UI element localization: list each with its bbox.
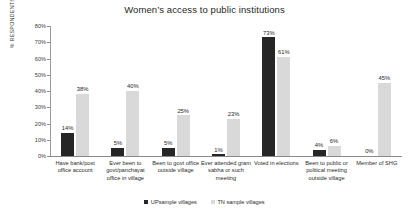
- x-axis-category-label: Ever been to govt/panchayat office in vi…: [100, 160, 150, 182]
- bar-slot: 4%: [313, 26, 326, 156]
- bar[interactable]: 73%: [262, 37, 275, 156]
- y-axis-tick-label: 70%: [18, 39, 46, 45]
- bar-group: 5%25%: [151, 26, 201, 156]
- bar[interactable]: 23%: [227, 119, 240, 156]
- x-axis-category-label: Been to govt office outside village: [151, 160, 201, 175]
- y-axis-tick-label: 20%: [18, 121, 46, 127]
- legend-label: TN sample villages: [217, 199, 264, 205]
- bar-value-label: 5%: [114, 141, 122, 147]
- bar-slot: 45%: [378, 26, 391, 156]
- bar[interactable]: 5%: [162, 148, 175, 156]
- bar-value-label: 25%: [177, 109, 189, 115]
- bar[interactable]: 25%: [177, 115, 190, 156]
- bar-group-bars: 1%23%: [201, 26, 251, 156]
- bar-group-bars: 5%25%: [151, 26, 201, 156]
- bar-value-label: 6%: [330, 139, 338, 145]
- bar-value-label: 4%: [315, 143, 323, 149]
- bar-value-label: 38%: [77, 87, 89, 93]
- bar-slot: 38%: [76, 26, 89, 156]
- x-axis-category-label: Been to public or political meeting outs…: [301, 160, 351, 182]
- bar[interactable]: 14%: [61, 133, 74, 156]
- legend-item[interactable]: UPsample villages: [144, 199, 197, 205]
- bar[interactable]: 4%: [313, 150, 326, 157]
- chart-container: Women’s access to public institutions % …: [0, 0, 409, 214]
- bar[interactable]: 1%: [212, 154, 225, 156]
- y-axis-tick-label: 50%: [18, 72, 46, 78]
- bar-value-label: 40%: [127, 84, 139, 90]
- bar-value-label: 5%: [164, 141, 172, 147]
- legend-item[interactable]: TN sample villages: [211, 199, 265, 205]
- bar-group: 4%6%: [301, 26, 351, 156]
- bar[interactable]: 6%: [328, 146, 341, 156]
- bar-value-label: 0%: [365, 149, 373, 155]
- bar-group-bars: 5%40%: [100, 26, 150, 156]
- x-axis-category-label: Have bank/post office account: [50, 160, 100, 175]
- bar-slot: 0%: [363, 26, 376, 156]
- bar-group-bars: 0%45%: [352, 26, 402, 156]
- legend-swatch-icon: [211, 200, 215, 204]
- bar-slot: 5%: [162, 26, 175, 156]
- y-axis-tick-label: 30%: [18, 104, 46, 110]
- bar-value-label: 23%: [228, 112, 240, 118]
- y-axis-tick-label: 0%: [18, 153, 46, 159]
- bar-group: 14%38%: [50, 26, 100, 156]
- bar-slot: 73%: [262, 26, 275, 156]
- bar-slot: 6%: [328, 26, 341, 156]
- bar-group: 1%23%: [201, 26, 251, 156]
- plot-area: 14%38%5%40%5%25%1%23%73%61%4%6%0%45%: [50, 26, 402, 156]
- bar[interactable]: 61%: [277, 57, 290, 156]
- chart-legend: UPsample villagesTN sample villages: [0, 199, 409, 205]
- bar-value-label: 61%: [278, 50, 290, 56]
- bar-group: 73%61%: [251, 26, 301, 156]
- bar-value-label: 14%: [62, 126, 74, 132]
- bar-slot: 5%: [111, 26, 124, 156]
- x-axis-category-label: Voted in elections: [251, 160, 301, 167]
- x-axis-category-label: Member of SHG: [352, 160, 402, 167]
- y-axis-tick-label: 40%: [18, 88, 46, 94]
- bar[interactable]: 40%: [126, 91, 139, 156]
- y-axis-tick-label: 60%: [18, 56, 46, 62]
- bar[interactable]: 5%: [111, 148, 124, 156]
- bar-group-bars: 4%6%: [301, 26, 351, 156]
- x-axis-category-label: Ever attended gram sabha or such meeting: [201, 160, 251, 182]
- x-axis-line: [50, 156, 402, 157]
- bar-group: 0%45%: [352, 26, 402, 156]
- bar-slot: 23%: [227, 26, 240, 156]
- y-axis-tick-label: 10%: [18, 137, 46, 143]
- bar-group-bars: 14%38%: [50, 26, 100, 156]
- bar[interactable]: 38%: [76, 94, 89, 156]
- bar-slot: 14%: [61, 26, 74, 156]
- bar-slot: 61%: [277, 26, 290, 156]
- legend-swatch-icon: [144, 200, 148, 204]
- y-axis-tick-label: 80%: [18, 23, 46, 29]
- bar-slot: 25%: [177, 26, 190, 156]
- bar-slot: 1%: [212, 26, 225, 156]
- bar-value-label: 73%: [263, 31, 275, 37]
- bar-value-label: 45%: [379, 76, 391, 82]
- bar-group: 5%40%: [100, 26, 150, 156]
- bar[interactable]: 45%: [378, 83, 391, 156]
- legend-label: UPsample villages: [151, 199, 197, 205]
- bar-group-bars: 73%61%: [251, 26, 301, 156]
- bar-slot: 40%: [126, 26, 139, 156]
- bar-value-label: 1%: [214, 148, 222, 154]
